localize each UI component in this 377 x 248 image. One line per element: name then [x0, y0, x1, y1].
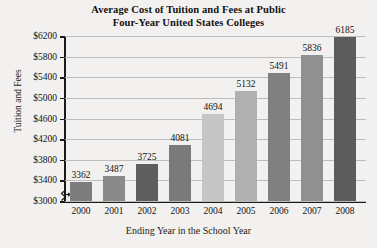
y-tick-label: $5400: [33, 72, 57, 82]
y-tick-label: $5800: [33, 52, 57, 62]
y-tick-mark: [60, 98, 65, 100]
x-tick-label: 2003: [171, 206, 190, 216]
x-tick-label: 2001: [105, 206, 124, 216]
bar-value-label: 3487: [105, 164, 124, 174]
bar-value-label: 4694: [204, 102, 223, 112]
x-tick-label: 2006: [270, 206, 289, 216]
y-tick-mark: [60, 77, 65, 79]
bar-value-label: 5491: [270, 61, 289, 71]
y-tick-mark: [60, 57, 65, 59]
x-tick-label: 2000: [72, 206, 91, 216]
plot-area: $3000$3400$3800$4200$4600$5000$5400$5800…: [64, 36, 366, 202]
y-tick-label: $5000: [33, 93, 57, 103]
y-tick-mark: [60, 180, 65, 182]
x-tick-label: 2008: [336, 206, 355, 216]
bar: 4081: [169, 145, 191, 201]
chart-title-line-1: Average Cost of Tuition and Fees at Publ…: [0, 4, 377, 17]
bar: 5836: [301, 55, 323, 201]
x-tick-label: 2004: [204, 206, 223, 216]
gridline: [65, 201, 366, 202]
bar-value-label: 3362: [72, 170, 91, 180]
gridline: [65, 36, 366, 37]
chart-title-line-2: Four-Year United States Colleges: [0, 17, 377, 30]
bar: 5491: [268, 73, 290, 201]
x-tick-label: 2002: [138, 206, 157, 216]
y-tick-label: $4200: [33, 134, 57, 144]
y-tick-label: $3800: [33, 155, 57, 165]
y-tick-label: $4600: [33, 114, 57, 124]
bar-value-label: 5836: [303, 43, 322, 53]
x-tick-label: 2007: [303, 206, 322, 216]
y-tick-mark: [60, 36, 65, 38]
y-axis-title: Tuition and Fees: [13, 46, 23, 156]
y-tick-mark: [60, 139, 65, 141]
bar: 3487: [103, 176, 125, 201]
bar: 5132: [235, 91, 257, 201]
bar: 4694: [202, 114, 224, 201]
bar-value-label: 6185: [336, 25, 355, 35]
x-tick-label: 2005: [237, 206, 256, 216]
y-tick-mark: [60, 119, 65, 121]
y-tick-mark: [60, 160, 65, 162]
x-axis-title: Ending Year in the School Year: [0, 225, 377, 236]
chart-title: Average Cost of Tuition and Fees at Publ…: [0, 4, 377, 29]
y-tick-label: $6200: [33, 31, 57, 41]
y-tick-mark: [60, 201, 65, 203]
bar-value-label: 3725: [138, 152, 157, 162]
bar: 6185: [334, 37, 356, 201]
bar: 3725: [136, 164, 158, 201]
chart-screenshot: Average Cost of Tuition and Fees at Publ…: [0, 0, 377, 248]
y-tick-label: $3000: [33, 196, 57, 206]
bar: 3362: [70, 182, 92, 201]
bar-value-label: 4081: [171, 133, 190, 143]
bar-value-label: 5132: [237, 79, 256, 89]
y-tick-label: $3400: [33, 175, 57, 185]
